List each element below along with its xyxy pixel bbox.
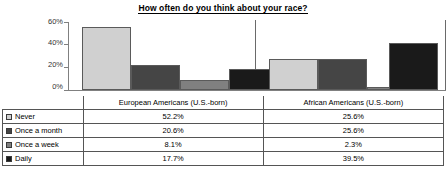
y-tick-label-20: 20%: [32, 61, 63, 69]
table-row: Never 52.2% 25.6%: [3, 110, 444, 124]
legend-item-never: Never: [3, 110, 84, 124]
table-header-african: African Americans (U.S.-born): [263, 96, 443, 110]
y-tick-label-40: 40%: [32, 39, 63, 47]
cell-once-a-week-european: 8.1%: [83, 138, 263, 152]
table-header-row: European Americans (U.S.-born) African A…: [3, 96, 444, 110]
cell-daily-african: 39.5%: [263, 152, 443, 166]
table-header-blank: [3, 96, 84, 110]
bar-african-once-a-month: [318, 59, 367, 90]
bar-series-container: [69, 18, 446, 90]
legend-swatch-icon: [6, 128, 12, 134]
table-row: Daily 17.7% 39.5%: [3, 152, 444, 166]
cell-once-a-week-african: 2.3%: [263, 138, 443, 152]
bar-european-never: [82, 27, 131, 90]
legend-label: Never: [15, 112, 35, 121]
legend-swatch-icon: [6, 114, 12, 120]
chart-title-text: How often do you think about your race?: [138, 3, 307, 14]
y-axis-labels: 60% 40% 20% 0%: [32, 18, 63, 90]
cell-once-a-month-african: 25.6%: [263, 124, 443, 138]
cell-once-a-month-european: 20.6%: [83, 124, 263, 138]
bar-african-daily: [389, 43, 438, 90]
y-tick-label-0: 0%: [32, 83, 63, 91]
table-row: Once a week 8.1% 2.3%: [3, 138, 444, 152]
x-axis-line: [68, 90, 446, 91]
bar-european-once-a-week: [180, 80, 229, 90]
chart-figure: How often do you think about your race? …: [0, 0, 446, 171]
legend-swatch-icon: [6, 142, 12, 148]
legend-label: Once a month: [15, 126, 62, 135]
bar-african-never: [269, 59, 318, 90]
data-table: European Americans (U.S.-born) African A…: [2, 96, 444, 166]
legend-item-daily: Daily: [3, 152, 84, 166]
legend-label: Once a week: [15, 140, 59, 149]
legend-item-once-a-week: Once a week: [3, 138, 84, 152]
chart-title: How often do you think about your race?: [0, 3, 446, 13]
cell-daily-european: 17.7%: [83, 152, 263, 166]
cell-never-african: 25.6%: [263, 110, 443, 124]
legend-label: Daily: [15, 154, 32, 163]
legend-swatch-icon: [6, 156, 12, 162]
y-tick-label-60: 60%: [32, 18, 63, 26]
table-header-european: European Americans (U.S.-born): [83, 96, 263, 110]
legend-item-once-a-month: Once a month: [3, 124, 84, 138]
bar-european-once-a-month: [131, 65, 180, 90]
plot-area: 60% 40% 20% 0%: [0, 18, 446, 96]
cell-never-european: 52.2%: [83, 110, 263, 124]
table-row: Once a month 20.6% 25.6%: [3, 124, 444, 138]
